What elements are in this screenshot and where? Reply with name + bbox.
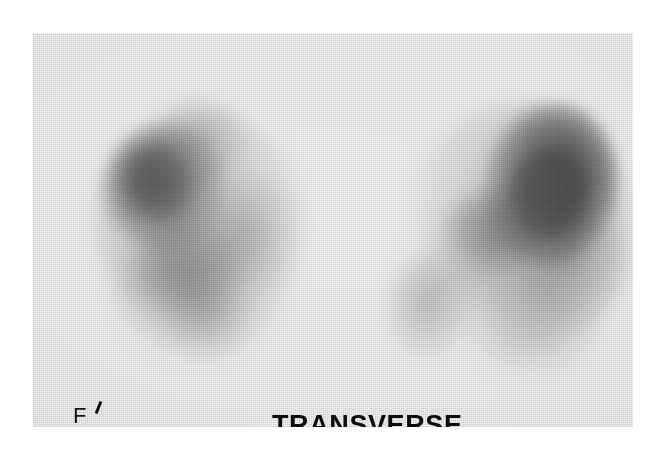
orientation-marker-label: F	[73, 405, 86, 427]
right-kidney-inferior-tail	[473, 283, 603, 379]
left-kidney-inferior-foot	[161, 281, 253, 359]
plane-label: TRANSVERSE	[272, 412, 463, 427]
right-kidney-lower-pole	[385, 255, 471, 359]
scan-viewport: F TRANSVERSE	[0, 0, 664, 460]
scintigram-image: F TRANSVERSE	[33, 33, 633, 427]
orientation-tick-icon	[95, 401, 103, 414]
